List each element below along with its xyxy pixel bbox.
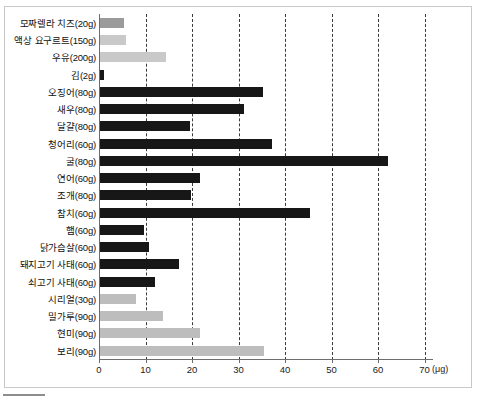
chart-row: 액상 요구르트(150g) (0, 31, 479, 49)
category-label: 시리얼(30g) (48, 292, 96, 306)
chart-row: 밀가루(90g) (0, 307, 479, 325)
bar (100, 277, 155, 287)
category-label: 청어리(60g) (48, 137, 96, 151)
bar (100, 208, 310, 218)
x-tick-label-60: 60 (373, 364, 384, 375)
x-tick-label-30: 30 (233, 364, 244, 375)
chart-row: 햄(60g) (0, 221, 479, 239)
category-label: 참치(60g) (57, 206, 96, 220)
category-label: 보리(90g) (57, 344, 96, 358)
bar (100, 173, 200, 183)
bar (100, 104, 244, 114)
chart-row: 조개(80g) (0, 187, 479, 205)
bar (100, 156, 388, 166)
chart-row: 쇠고기 사태(60g) (0, 273, 479, 291)
category-label: 현미(90g) (57, 326, 96, 340)
chart-row: 굴(80g) (0, 152, 479, 170)
chart-row: 돼지고기 사태(60g) (0, 256, 479, 274)
x-tick-label-0: 0 (96, 364, 101, 375)
category-label: 밀가루(90g) (48, 309, 96, 323)
category-label: 오징어(80g) (48, 85, 96, 99)
bottom-caption-strip (0, 393, 479, 402)
bar (100, 328, 200, 338)
x-tick-label-50: 50 (326, 364, 337, 375)
x-tick-label-20: 20 (187, 364, 198, 375)
bar (100, 139, 272, 149)
chart-unit-label: (μg) (432, 364, 448, 374)
chart-row: 현미(90g) (0, 325, 479, 343)
category-label: 굴(80g) (66, 154, 96, 168)
bar (100, 346, 264, 356)
bar (100, 52, 166, 62)
x-tick-label-70: 70 (419, 364, 430, 375)
chart-row: 청어리(60g) (0, 135, 479, 153)
chart-row: 보리(90g) (0, 342, 479, 360)
chart-row: 달걀(80g) (0, 118, 479, 136)
chart-row: 모짜렐라 치즈(20g) (0, 14, 479, 32)
chart-row: 참치(60g) (0, 204, 479, 222)
chart-row: 시리얼(30g) (0, 290, 479, 308)
category-label: 모짜렐라 치즈(20g) (20, 16, 96, 30)
caption-rule (3, 394, 45, 396)
chart-row: 오징어(80g) (0, 83, 479, 101)
category-label: 달걀(80g) (57, 119, 96, 133)
chart-row: 김(2g) (0, 66, 479, 84)
chart-row: 닭가슴살(60g) (0, 238, 479, 256)
bar (100, 242, 149, 252)
bar (100, 311, 163, 321)
chart-row: 새우(80g) (0, 100, 479, 118)
x-tick-label-40: 40 (280, 364, 291, 375)
bar (100, 259, 179, 269)
category-label: 액상 요구르트(150g) (14, 33, 96, 47)
bar (100, 35, 126, 45)
category-label: 쇠고기 사태(60g) (28, 275, 96, 289)
bar (100, 18, 124, 28)
screenshot-root: 010203040506070 모짜렐라 치즈(20g)액상 요구르트(150g… (0, 0, 479, 402)
bar (100, 294, 136, 304)
category-label: 김(2g) (71, 68, 96, 82)
bar (100, 190, 191, 200)
category-label: 새우(80g) (57, 102, 96, 116)
category-label: 닭가슴살(60g) (40, 240, 96, 254)
bar (100, 87, 263, 97)
category-label: 햄(60g) (66, 223, 96, 237)
category-label: 조개(80g) (57, 188, 96, 202)
bar (100, 70, 104, 80)
chart-row: 연어(60g) (0, 169, 479, 187)
category-label: 연어(60g) (57, 171, 96, 185)
bar (100, 225, 144, 235)
chart-row: 우유(200g) (0, 49, 479, 67)
x-tick-label-10: 10 (140, 364, 151, 375)
category-label: 우유(200g) (52, 50, 96, 64)
category-label: 돼지고기 사태(60g) (20, 257, 96, 271)
bar (100, 121, 190, 131)
